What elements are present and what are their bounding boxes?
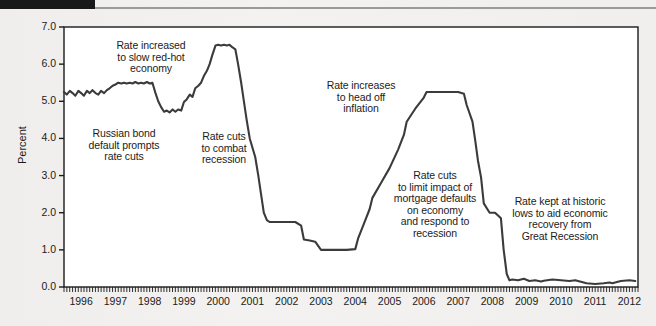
figure-canvas: Percent 0.01.02.03.04.05.06.07.0 1996199…: [0, 0, 656, 326]
y-tick-label: 1.0: [18, 243, 56, 255]
annotation-rate-kept-historic-lows: Rate kept at historic lows to aid econom…: [496, 196, 624, 242]
annotation-rate-increases-inflation: Rate increases to head off inflation: [306, 80, 416, 115]
x-axis-minor-ticks: [64, 287, 638, 292]
y-tick-label: 4.0: [18, 131, 56, 143]
annotation-rate-cuts-recession: Rate cuts to combat recession: [181, 131, 267, 166]
y-tick-label: 0.0: [18, 280, 56, 292]
y-tick-label: 2.0: [18, 206, 56, 218]
y-tick-label: 3.0: [18, 169, 56, 181]
y-tick-label: 5.0: [18, 94, 56, 106]
annotation-rate-increased: Rate increased to slow red-hot economy: [86, 40, 216, 75]
x-tick-label: 2012: [609, 295, 649, 307]
y-tick-label: 6.0: [18, 57, 56, 69]
annotation-rate-cuts-mortgage: Rate cuts to limit impact of mortgage de…: [379, 170, 491, 240]
y-tick-label: 7.0: [18, 20, 56, 32]
annotation-russian-bond: Russian bond default prompts rate cuts: [62, 128, 186, 163]
